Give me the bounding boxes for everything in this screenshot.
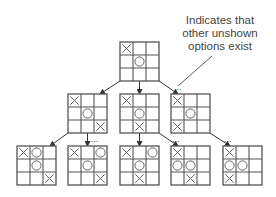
board-leaf-3 <box>120 146 159 185</box>
annotation-callout: Indicates that other unshown options exi… <box>170 14 270 53</box>
arrow-icon <box>50 133 68 146</box>
annotation-line-2: other unshown <box>170 27 270 40</box>
board-leaf-5 <box>223 146 262 185</box>
board-mid-1 <box>68 94 107 133</box>
board-leaf-2 <box>68 146 107 185</box>
arrow-icon <box>100 81 120 94</box>
board-leaf-1 <box>17 146 56 185</box>
board-root <box>120 42 159 81</box>
annotation-leader-line <box>178 56 212 86</box>
ellipsis-marker: ... <box>172 134 180 144</box>
ellipsis-marker: ... <box>91 134 99 144</box>
ellipsis-marker: ... <box>224 134 232 144</box>
annotation-line-3: options exist <box>170 40 270 53</box>
tic-tac-toe-boards <box>17 42 262 185</box>
board-mid-3 <box>171 94 210 133</box>
annotation-line-1: Indicates that <box>170 14 270 27</box>
board-leaf-4 <box>171 146 210 185</box>
leader-line <box>178 56 212 86</box>
board-mid-2 <box>120 94 159 133</box>
